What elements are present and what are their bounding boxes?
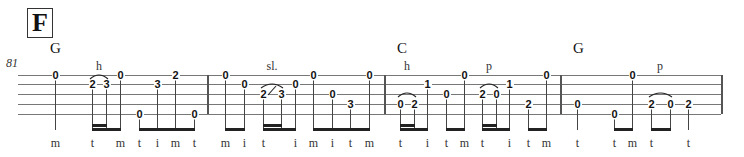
slur-arc-icon <box>0 0 744 157</box>
